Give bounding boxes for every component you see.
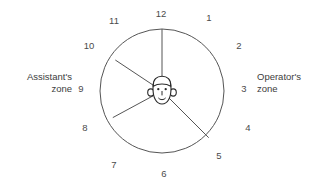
operators-zone-label-line1: Operator's bbox=[257, 71, 301, 83]
operators-zone-label-line2: zone bbox=[257, 83, 301, 95]
diagram-canvas: 12 1 2 3 4 5 6 7 8 9 10 11 Assistant's z… bbox=[0, 0, 324, 191]
assistants-zone-label: Assistant's zone bbox=[27, 71, 72, 95]
clock-number-11: 11 bbox=[109, 16, 119, 26]
clock-number-3: 3 bbox=[241, 84, 246, 94]
clock-number-9: 9 bbox=[78, 84, 83, 94]
clock-number-8: 8 bbox=[82, 123, 87, 133]
clock-number-4: 4 bbox=[245, 123, 250, 133]
clock-number-12: 12 bbox=[156, 9, 167, 19]
assistants-zone-label-line2: zone bbox=[27, 83, 72, 95]
clock-number-5: 5 bbox=[216, 151, 221, 161]
clock-number-6: 6 bbox=[161, 169, 166, 179]
clock-number-2: 2 bbox=[236, 41, 241, 51]
clock-zone-diagram bbox=[0, 0, 324, 191]
assistants-zone-label-line1: Assistant's bbox=[27, 71, 72, 83]
person-head-icon bbox=[148, 76, 177, 104]
operators-zone-label: Operator's zone bbox=[257, 71, 301, 95]
clock-number-10: 10 bbox=[84, 41, 95, 51]
clock-number-1: 1 bbox=[206, 13, 211, 23]
clock-number-7: 7 bbox=[111, 160, 116, 170]
